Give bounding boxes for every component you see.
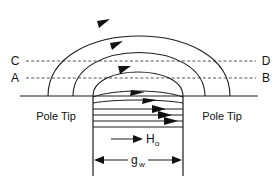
diagram-canvas: C D A B [0,0,279,178]
field-arrow-head-icon [133,135,143,143]
gap-dim-arrowhead-left [94,156,104,164]
gap-flux-arrowhead-5 [164,117,178,125]
gap-width-dimension: g w [94,153,182,169]
level-c-label: C [11,54,20,68]
level-b-label: B [262,71,270,85]
gap-flux-line-2 [93,100,183,103]
gap-symbol-label: g [131,153,138,167]
fringe-arc-middle-arrowhead [110,41,123,50]
fringe-arc-outer-arrowhead [97,19,110,28]
flying-height-level-cd: C D [11,54,271,68]
magnetic-head-gap-diagram: C D A B [0,0,279,178]
pole-tip-left-label: Pole Tip [36,110,76,122]
field-symbol-label: H [146,132,155,146]
gap-flux-arrowhead-2 [142,98,157,104]
gap-subscript-label: w [138,160,145,169]
field-subscript-label: o [155,139,160,148]
level-a-label: A [11,71,19,85]
fringe-arc-middle [73,53,205,97]
pole-tip-right-label: Pole Tip [202,110,242,122]
deep-gap-field-annotation: H o [111,132,160,148]
fringe-field-arcs [48,19,230,96]
fringe-arc-outer [48,36,230,96]
gap-dim-arrowhead-right [172,156,182,164]
level-d-label: D [262,54,271,68]
